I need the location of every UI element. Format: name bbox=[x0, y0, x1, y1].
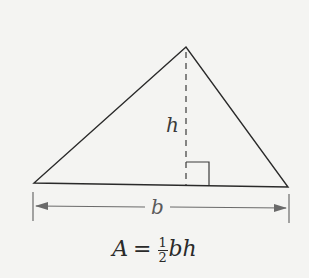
arrow-right-icon bbox=[274, 204, 287, 212]
area-formula: A=12bh bbox=[0, 236, 309, 264]
arrow-left-icon bbox=[35, 202, 48, 210]
formula-fraction: 12 bbox=[158, 237, 168, 264]
formula-rhs-vars: bh bbox=[169, 236, 197, 261]
base-label: b bbox=[151, 195, 164, 219]
fraction-denominator: 2 bbox=[158, 252, 166, 264]
fraction-numerator: 1 bbox=[158, 237, 166, 249]
base-dimension-right bbox=[170, 207, 286, 208]
formula-lhs: A bbox=[112, 236, 128, 261]
base-dimension-left bbox=[36, 206, 145, 207]
triangle bbox=[34, 47, 288, 187]
formula-equals: = bbox=[133, 236, 151, 261]
right-angle-marker bbox=[186, 162, 209, 185]
height-label: h bbox=[166, 113, 179, 137]
